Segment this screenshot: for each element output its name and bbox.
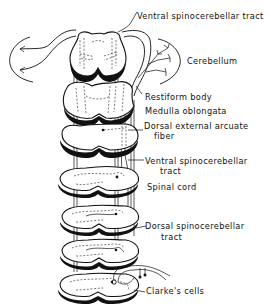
label-dorsal-spinocerebellar-2: tract — [161, 232, 182, 242]
label-cerebellum: Cerebellum — [187, 56, 237, 66]
spinal-cord-section-3 — [60, 239, 139, 270]
label-dorsal-spinocerebellar-1: Dorsal spinocerebellar — [145, 221, 245, 231]
label-ventral-spinocerebellar-mid-2: tract — [160, 166, 181, 176]
label-medulla-oblongata: Medulla oblongata — [145, 106, 227, 116]
label-ventral-spinocerebellar-top: Ventral spinocerebellar tract — [137, 11, 264, 21]
medulla-upper-section — [63, 82, 134, 126]
spinal-cord-section-2 — [60, 205, 139, 236]
medulla-lower-section — [60, 124, 138, 158]
label-dorsal-arcuate-2: fiber — [154, 131, 175, 141]
spinal-cord-section-4 — [58, 273, 139, 304]
cerebellum-left-wing — [10, 30, 76, 82]
cerebellum-level-section — [70, 32, 126, 82]
label-dorsal-arcuate-1: Dorsal external arcuate — [144, 121, 248, 131]
label-spinal-cord: Spinal cord — [147, 182, 197, 192]
label-clarkes-cells: Clarke's cells — [146, 286, 204, 296]
spinal-cord-section-1 — [58, 167, 139, 199]
spinocerebellar-diagram: Ventral spinocerebellar tract Cerebellum… — [0, 0, 269, 308]
label-restiform-body: Restiform body — [145, 92, 212, 102]
label-ventral-spinocerebellar-mid-1: Ventral spinocerebellar — [145, 156, 248, 166]
